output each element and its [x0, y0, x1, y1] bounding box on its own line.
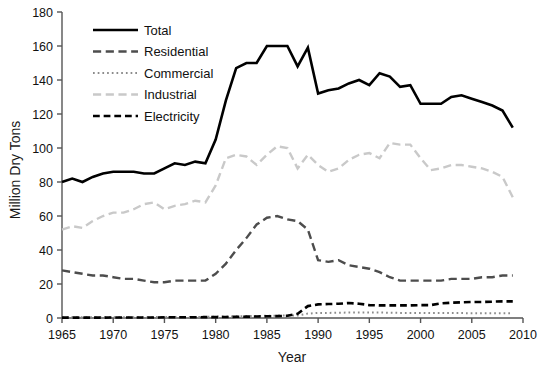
x-tick-label: 1980 [202, 328, 230, 342]
x-tick-label: 1995 [355, 328, 383, 342]
line-chart: 020406080100120140160180 196519701975198… [0, 0, 542, 369]
legend-label-industrial: Industrial [144, 87, 197, 102]
y-tick-label: 100 [32, 142, 53, 156]
y-tick-label: 80 [39, 176, 53, 190]
x-tick-label: 1970 [99, 328, 127, 342]
x-tick-label: 1985 [253, 328, 281, 342]
y-tick-label: 60 [39, 210, 53, 224]
y-tick-label: 0 [46, 312, 53, 326]
plot-background [0, 0, 542, 369]
x-tick-label: 2010 [509, 328, 537, 342]
x-tick-label: 1990 [304, 328, 332, 342]
legend-label-commercial: Commercial [144, 66, 213, 81]
y-tick-label: 20 [39, 278, 53, 292]
y-tick-label: 160 [32, 40, 53, 54]
x-tick-label: 1965 [48, 328, 76, 342]
x-tick-label: 1975 [151, 328, 179, 342]
y-axis-title: Million Dry Tons [7, 121, 23, 220]
x-tick-label: 2000 [407, 328, 435, 342]
y-tick-label: 180 [32, 6, 53, 20]
legend-label-residential: Residential [144, 44, 208, 59]
y-tick-label: 40 [39, 244, 53, 258]
legend-label-total: Total [144, 23, 172, 38]
y-tick-label: 140 [32, 74, 53, 88]
chart-container: 020406080100120140160180 196519701975198… [0, 0, 542, 369]
legend-label-electricity: Electricity [144, 109, 200, 124]
x-tick-label: 2005 [458, 328, 486, 342]
y-tick-label: 120 [32, 108, 53, 122]
x-axis-title: Year [278, 349, 307, 365]
